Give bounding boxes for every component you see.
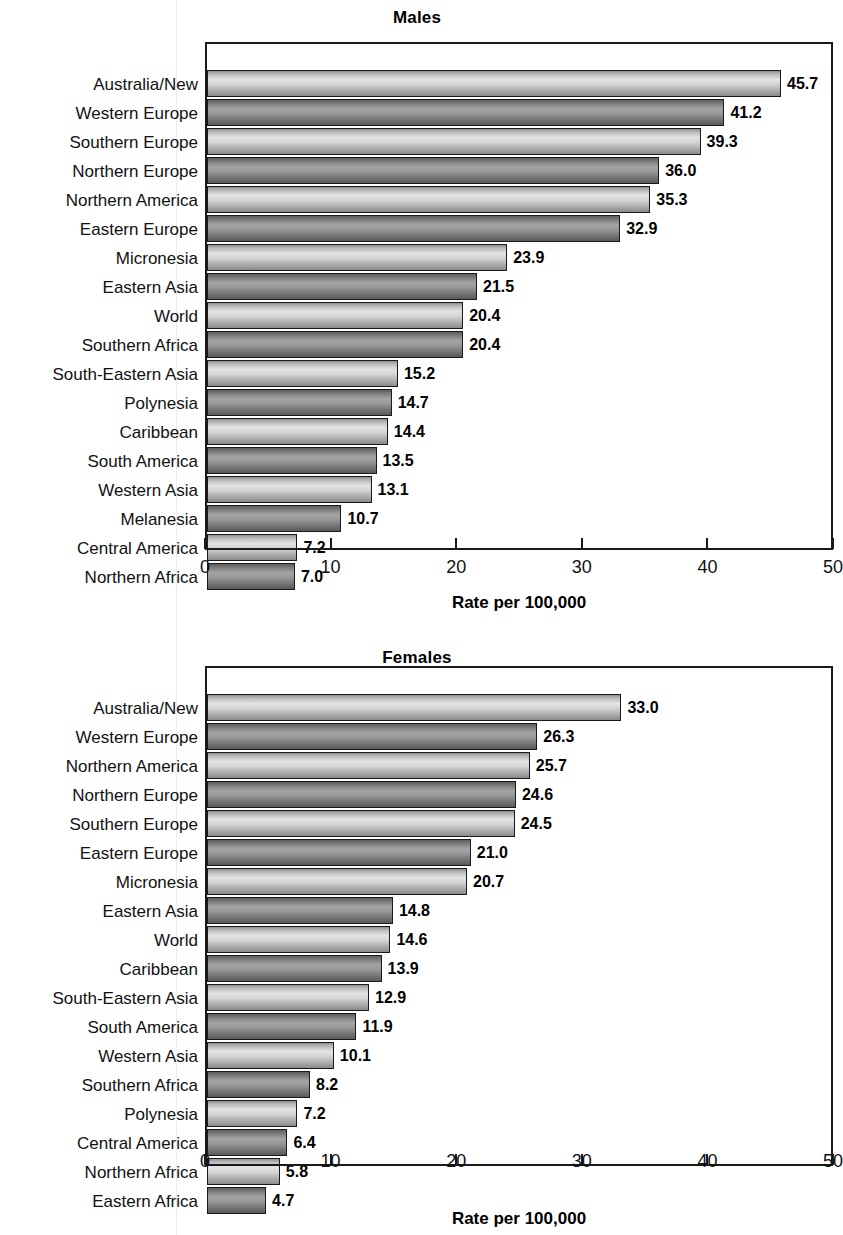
category-label: World bbox=[154, 307, 198, 324]
bar-value-label: 11.9 bbox=[362, 1019, 392, 1035]
bar bbox=[207, 128, 701, 155]
bar bbox=[207, 331, 463, 358]
chart-panel-males: Males Australia/New45.7Western Europe41.… bbox=[0, 0, 834, 620]
bar-value-label: 26.3 bbox=[543, 729, 574, 745]
x-axis-tick-labels-males: 01020304050 bbox=[205, 558, 833, 582]
category-label: Southern Europe bbox=[69, 815, 198, 832]
x-axis-tick-label: 50 bbox=[823, 1152, 843, 1170]
x-axis-tick-label: 20 bbox=[446, 1152, 466, 1170]
category-label: Northern America bbox=[66, 191, 198, 208]
category-label: Southern Africa bbox=[82, 1076, 198, 1093]
category-label: Northern Africa bbox=[85, 568, 198, 585]
category-label: Northern Europe bbox=[72, 162, 198, 179]
x-axis-tick-label: 30 bbox=[572, 558, 592, 576]
bar-row: Micronesia23.9 bbox=[207, 244, 831, 271]
category-label: Melanesia bbox=[121, 510, 199, 527]
bar-row: South America11.9 bbox=[207, 1013, 831, 1040]
bar-row: Eastern Europe32.9 bbox=[207, 215, 831, 242]
bar-value-label: 10.1 bbox=[340, 1048, 371, 1064]
bar bbox=[207, 926, 390, 953]
bar-value-label: 7.2 bbox=[303, 1106, 325, 1122]
bar-row: Polynesia14.7 bbox=[207, 389, 831, 416]
x-axis-tick bbox=[832, 538, 834, 549]
bar-row: South America13.5 bbox=[207, 447, 831, 474]
category-label: Polynesia bbox=[124, 1105, 198, 1122]
category-label: South-Eastern Asia bbox=[52, 989, 198, 1006]
bar-value-label: 6.4 bbox=[293, 1135, 315, 1151]
bar-value-label: 24.5 bbox=[521, 816, 552, 832]
category-label: Southern Europe bbox=[69, 133, 198, 150]
x-axis-tick bbox=[581, 538, 583, 549]
x-axis-tick-label: 50 bbox=[823, 558, 843, 576]
category-label: Micronesia bbox=[116, 249, 198, 266]
bar-value-label: 20.4 bbox=[469, 337, 500, 353]
category-label: Western Europe bbox=[75, 104, 198, 121]
bar-value-label: 14.6 bbox=[396, 932, 427, 948]
category-label: Central America bbox=[77, 1134, 198, 1151]
x-axis-tick-labels-females: 01020304050 bbox=[205, 1152, 833, 1176]
bar-row: Caribbean13.9 bbox=[207, 955, 831, 982]
bar-row: Southern Europe39.3 bbox=[207, 128, 831, 155]
bar-value-label: 35.3 bbox=[656, 192, 687, 208]
x-axis-tick-label: 0 bbox=[200, 558, 210, 576]
bar-value-label: 12.9 bbox=[375, 990, 406, 1006]
bar-row: Northern Europe36.0 bbox=[207, 157, 831, 184]
x-axis-tick-label: 40 bbox=[697, 558, 717, 576]
bar-value-label: 10.7 bbox=[347, 511, 378, 527]
bar bbox=[207, 868, 467, 895]
bar bbox=[207, 810, 515, 837]
bar-row: Western Asia13.1 bbox=[207, 476, 831, 503]
bar-value-label: 4.7 bbox=[272, 1193, 294, 1209]
bar-value-label: 36.0 bbox=[665, 163, 696, 179]
category-label: Northern Africa bbox=[85, 1163, 198, 1180]
category-label: Australia/New bbox=[93, 75, 198, 92]
bar-row: Western Europe41.2 bbox=[207, 99, 831, 126]
bar-row: Northern America25.7 bbox=[207, 752, 831, 779]
bar bbox=[207, 157, 659, 184]
bar-rows-males: Australia/New45.7Western Europe41.2South… bbox=[207, 70, 831, 592]
category-label: Southern Africa bbox=[82, 336, 198, 353]
bar bbox=[207, 186, 650, 213]
bar bbox=[207, 70, 781, 97]
bar-row: Eastern Asia21.5 bbox=[207, 273, 831, 300]
bar bbox=[207, 839, 471, 866]
bar-row: Northern America35.3 bbox=[207, 186, 831, 213]
category-label: Eastern Europe bbox=[80, 844, 198, 861]
bar bbox=[207, 1042, 334, 1069]
bar-row: Eastern Europe21.0 bbox=[207, 839, 831, 866]
chart-title-females: Females bbox=[0, 648, 834, 668]
bar bbox=[207, 897, 393, 924]
bar bbox=[207, 302, 463, 329]
x-axis-line-males bbox=[207, 548, 831, 550]
category-label: Western Asia bbox=[98, 1047, 198, 1064]
x-axis-tick-label: 20 bbox=[446, 558, 466, 576]
bar bbox=[207, 99, 724, 126]
bar bbox=[207, 447, 377, 474]
category-label: Northern America bbox=[66, 757, 198, 774]
x-axis-title-males: Rate per 100,000 bbox=[205, 593, 833, 613]
x-axis-tick-label: 40 bbox=[697, 1152, 717, 1170]
bar bbox=[207, 215, 620, 242]
bar bbox=[207, 984, 369, 1011]
category-label: South America bbox=[87, 452, 198, 469]
bar bbox=[207, 955, 382, 982]
x-axis-tick-label: 10 bbox=[321, 1152, 341, 1170]
bar-value-label: 20.7 bbox=[473, 874, 504, 890]
bar-value-label: 25.7 bbox=[536, 758, 567, 774]
bar-value-label: 15.2 bbox=[404, 366, 435, 382]
bar-value-label: 23.9 bbox=[513, 250, 544, 266]
bar-row: World14.6 bbox=[207, 926, 831, 953]
bar bbox=[207, 360, 398, 387]
bar bbox=[207, 781, 516, 808]
x-axis-tick-label: 0 bbox=[200, 1152, 210, 1170]
category-label: Western Europe bbox=[75, 728, 198, 745]
bar-row: Polynesia7.2 bbox=[207, 1100, 831, 1127]
bar-value-label: 14.8 bbox=[399, 903, 430, 919]
bar bbox=[207, 1071, 310, 1098]
bar bbox=[207, 418, 388, 445]
bar-row: Australia/New33.0 bbox=[207, 694, 831, 721]
category-label: Caribbean bbox=[120, 960, 198, 977]
bar bbox=[207, 752, 530, 779]
bar bbox=[207, 389, 392, 416]
bar-value-label: 39.3 bbox=[707, 134, 738, 150]
